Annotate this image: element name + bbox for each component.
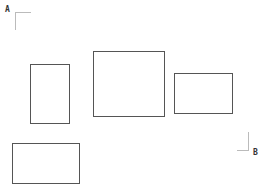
diagram-canvas: A B: [0, 0, 268, 193]
rect-2: [93, 51, 165, 117]
rect-4: [12, 143, 80, 184]
corner-b-vertical: [248, 132, 249, 151]
corner-b-horizontal: [237, 150, 249, 151]
rect-1: [30, 64, 70, 124]
rect-3: [174, 73, 233, 114]
corner-a-vertical: [15, 12, 16, 30]
corner-b-label: B: [253, 149, 258, 157]
corner-a-horizontal: [15, 12, 31, 13]
corner-a-label: A: [5, 6, 10, 14]
